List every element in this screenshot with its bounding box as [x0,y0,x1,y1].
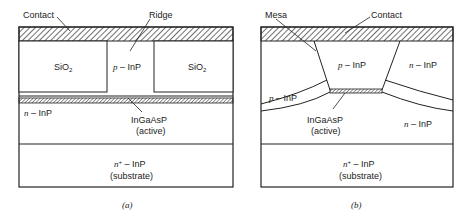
panel-b-active-label-2: (active) [311,126,341,136]
panel-b-active-stripe [330,89,382,93]
panel-b-caption: (b) [351,200,362,210]
panel-a-ridge-layer-label: p – InP [112,62,141,72]
panel-b-left-block-label: p – InP [268,93,297,103]
panel-a-contact-label: Contact [23,10,55,20]
panel-b-contact-label: Contact [371,10,403,20]
panel-a-caption: (a) [122,200,133,210]
panel-b-right-lower-label: n – InP [404,119,432,129]
panel-a-substrate-label-2: (substrate) [110,171,153,181]
panel-b-substrate-label-2: (substrate) [339,171,382,181]
panel-a-active-label-2: (active) [136,126,166,136]
laser-structures-diagram: Contact Ridge SiO2 SiO2 p – InP n – InP … [0,0,470,219]
panel-a-active-label-1: InGaAsP [131,115,167,125]
panel-a: Contact Ridge SiO2 SiO2 p – InP n – InP … [19,10,233,210]
panel-b-mesa-layer-label: p – InP [337,60,366,70]
panel-a-n-inp-label: n – InP [24,108,52,118]
panel-b: Mesa Contact p – InP n – InP p – InP n –… [261,10,453,210]
panel-a-ridge-label: Ridge [149,10,173,20]
panel-b-right-upper-label: n – InP [409,60,437,70]
panel-b-active-label-1: InGaAsP [307,115,343,125]
panel-b-contact-layer [261,27,453,41]
panel-b-mesa-label: Mesa [265,10,287,20]
panel-a-active-layer [19,98,233,103]
panel-a-contact-layer [19,27,233,41]
